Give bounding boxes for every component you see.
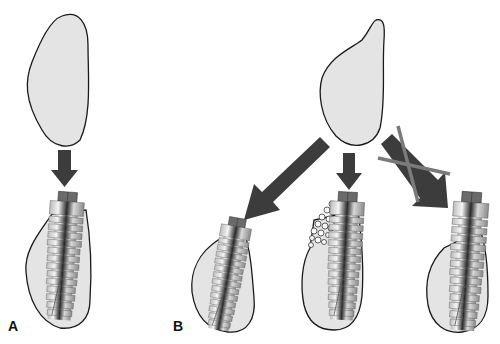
bone-block-a (27, 14, 88, 146)
arrow-left-diagonal (244, 137, 330, 220)
panel-b (192, 20, 490, 333)
arrow-down-a (51, 150, 78, 187)
panel-label-a: A (8, 318, 18, 334)
bone-block-b (320, 20, 384, 146)
arrow-down-b (336, 153, 362, 190)
diagram-canvas (0, 0, 500, 344)
panel-a (26, 14, 91, 328)
panel-label-b: B (173, 318, 183, 334)
